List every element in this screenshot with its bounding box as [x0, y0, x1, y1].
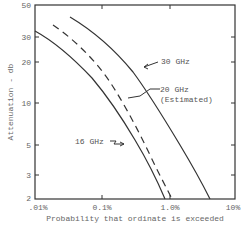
y-axis-title: Attenuation - db: [6, 63, 15, 140]
y-tick-50: 50: [21, 1, 31, 10]
arrow-20ghz-icon: [128, 89, 160, 98]
y-tick-5: 5: [26, 141, 31, 150]
series-20ghz-dashed-line: [53, 25, 172, 199]
y-tick-30: 30: [21, 33, 31, 42]
annotation-30ghz: 30 GHz: [144, 57, 190, 69]
x-tick-10: 10%: [226, 203, 241, 212]
y-ticks-right: [231, 37, 235, 175]
arrow-30ghz-icon: [144, 62, 158, 67]
annotation-20ghz: 20 GHz (Estimated): [128, 85, 213, 104]
label-16ghz: 16 GHz: [75, 137, 104, 146]
label-20ghz: 20 GHz: [160, 85, 189, 94]
x-tick-01: 0.1%: [92, 203, 111, 212]
x-axis-title: Probability that ordinate is exceeded: [46, 214, 224, 223]
series-16ghz-line: [35, 31, 165, 199]
label-30ghz: 30 GHz: [161, 57, 190, 66]
annotation-16ghz: 16 GHz: [75, 137, 124, 146]
attenuation-chart: 50 30 20 10 5 3 2 .01% 0.1% 1.0% 10% Pro…: [0, 0, 247, 226]
label-20ghz-estimated: (Estimated): [160, 95, 213, 104]
y-tick-2: 2: [26, 194, 31, 203]
x-tick-1: 1.0%: [160, 203, 179, 212]
y-tick-20: 20: [21, 58, 31, 67]
x-tick-001: .01%: [28, 203, 47, 212]
series-30ghz-line: [70, 17, 210, 199]
y-tick-3: 3: [26, 171, 31, 180]
y-tick-10: 10: [21, 99, 31, 108]
